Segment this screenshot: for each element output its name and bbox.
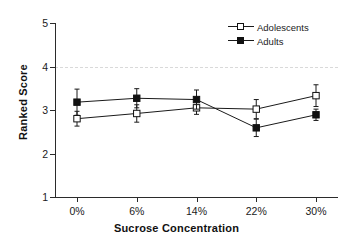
data-point-adolescents-3 — [253, 106, 259, 112]
open-square-marker-icon — [228, 21, 254, 33]
data-point-adults-2 — [193, 96, 199, 102]
data-point-adults-1 — [134, 95, 140, 101]
legend-item-adults: Adults — [228, 34, 309, 48]
data-point-adolescents-4 — [313, 92, 319, 98]
legend-label-adolescents: Adolescents — [257, 22, 309, 33]
x-axis-title: Sucrose Concentration — [0, 222, 353, 234]
y-axis-title: Ranked Score — [17, 37, 29, 167]
data-point-adolescents-0 — [74, 116, 80, 122]
legend-item-adolescents: Adolescents — [228, 20, 309, 34]
chart-legend: Adolescents Adults — [228, 20, 309, 48]
data-point-adults-0 — [74, 99, 80, 105]
data-point-adolescents-1 — [134, 110, 140, 116]
data-point-adults-4 — [313, 112, 319, 118]
filled-square-marker-icon — [228, 35, 254, 47]
chart-figure: 12345 0%6%14%22%30% Sucrose Concentratio… — [0, 0, 353, 245]
legend-label-adults: Adults — [257, 36, 283, 47]
data-point-adults-3 — [253, 125, 259, 131]
